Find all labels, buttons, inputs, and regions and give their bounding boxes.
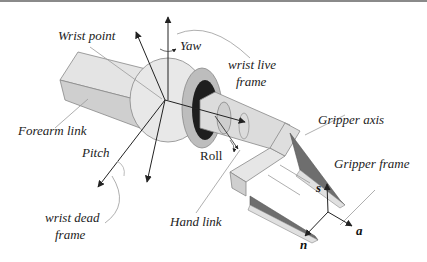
a-axis-label: a <box>356 223 363 238</box>
hand-link-label: Hand link <box>169 214 222 229</box>
gripper-frame-label: Gripper frame <box>334 156 410 171</box>
n-axis-arrow <box>305 212 328 236</box>
s-axis-label: s <box>315 180 321 195</box>
forearm-link-label: Forearm link <box>17 123 87 138</box>
wrist-dead-frame-label-line2: frame <box>55 227 86 242</box>
yaw-label: Yaw <box>180 38 202 53</box>
n-axis-label: n <box>300 237 307 252</box>
pitch-label: Pitch <box>81 145 109 160</box>
wrist-point-label: Wrist point <box>58 28 116 43</box>
gripper-axis-label: Gripper axis <box>318 112 384 127</box>
roll-rotation-arc <box>230 140 234 152</box>
a-axis-arrow <box>328 212 352 226</box>
wrist-live-frame-label-line2: frame <box>236 74 267 89</box>
roll-label: Roll <box>200 148 223 163</box>
wrist-dead-frame-label-line1: wrist dead <box>45 210 100 225</box>
wrist-live-frame-label-line1: wrist live <box>228 57 276 72</box>
wrist-diagram: Wrist point Yaw wrist live frame Forearm… <box>0 0 427 262</box>
pitch-rotation-arc <box>117 161 124 176</box>
